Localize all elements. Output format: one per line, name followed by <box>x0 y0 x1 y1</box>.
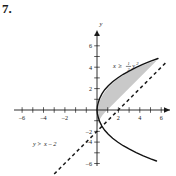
parabola-label-relation: ≥ <box>119 62 123 69</box>
dashed-boundary-line <box>54 62 167 175</box>
line-label-lhs: y <box>32 140 36 147</box>
line-inequality-label: y > x – 2 <box>32 140 57 147</box>
x-axis-arrow <box>164 107 170 112</box>
x-tick-label-neg6: –6 <box>18 114 25 121</box>
coordinate-plane-figure: –6 –4 –2 2 4 6 6 4 2 –2 –4 –6 y x ≥ 1 2 … <box>0 0 176 176</box>
y-axis-label: y <box>99 20 103 27</box>
x-tick-label-6: 6 <box>160 114 163 121</box>
y-tick-label-neg6: –6 <box>85 160 92 167</box>
parabola-label-variable: x <box>112 62 116 69</box>
line-label-relation: > <box>38 140 42 147</box>
parabola-label-exponent: 2 <box>136 61 139 66</box>
y-tick-label-neg2: –2 <box>85 128 92 135</box>
x-tick-label-neg4: –4 <box>39 114 46 121</box>
parabola-label-base: y <box>131 62 135 69</box>
x-tick-label-4: 4 <box>138 114 141 121</box>
y-tick-label-2: 2 <box>89 85 92 92</box>
y-tick-label-6: 6 <box>89 42 92 49</box>
x-tick-label-neg2: –2 <box>61 114 68 121</box>
parabola-label-numerator: 1 <box>127 61 129 66</box>
y-tick-label-4: 4 <box>89 64 92 71</box>
line-label-rhs: x – 2 <box>43 140 57 147</box>
x-tick-label-2: 2 <box>117 114 120 121</box>
